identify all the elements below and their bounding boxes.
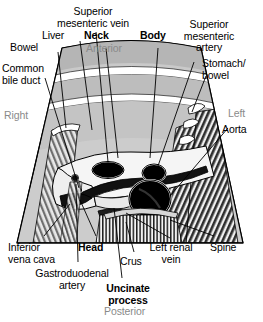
label-left: Left [228, 108, 245, 120]
label-left-renal-vein: Left renal vein [140, 242, 202, 265]
uncinate-process-shape [94, 196, 132, 209]
label-superior-mesenteric-vein: Superior mesenteric vein [43, 6, 143, 29]
label-crus: Crus [120, 256, 142, 268]
label-posterior: Posterior [104, 306, 145, 318]
label-bowel: Bowel [10, 42, 38, 54]
label-right: Right [4, 110, 28, 122]
label-aorta: Aorta [222, 124, 247, 136]
label-stomach-bowel: Stomach/ bowel [202, 58, 246, 81]
label-common-bile-duct: Common bile duct [2, 63, 44, 86]
label-head: Head [78, 242, 103, 254]
figure-root: Superior mesenteric vein Liver Bowel Com… [0, 0, 263, 322]
label-superior-mesenteric-artery: Superior mesenteric artery [172, 19, 246, 54]
label-anterior: Anterior [86, 43, 122, 55]
label-uncinate-process: Uncinate process [92, 283, 164, 306]
label-neck: Neck [84, 30, 109, 42]
label-liver: Liver [42, 30, 64, 42]
label-inferior-vena-cava: Inferior vena cava [8, 242, 55, 265]
label-spine: Spine [210, 242, 236, 254]
label-body: Body [140, 30, 166, 42]
spine-crus-shadow [96, 215, 182, 243]
